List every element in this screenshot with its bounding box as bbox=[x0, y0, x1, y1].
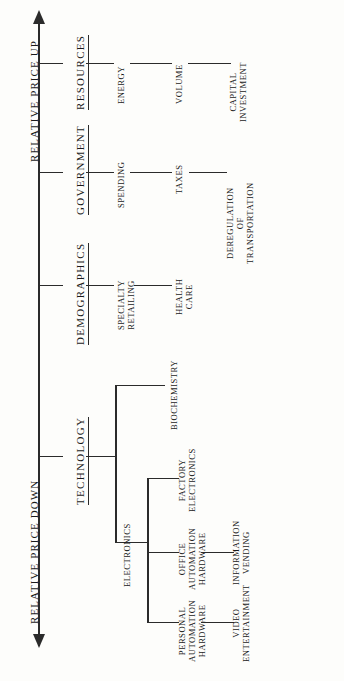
category-technology: TECHNOLOGY bbox=[74, 417, 89, 505]
taxes-to-deregulation-link bbox=[189, 172, 227, 173]
price-up-arrowhead bbox=[33, 10, 45, 24]
electronics-vertical-split bbox=[147, 478, 149, 622]
node-deregulation-transportation-label: DEREGULATIONOFTRANSPORTATION bbox=[225, 182, 255, 264]
node-electronics-label: ELECTRONICS bbox=[122, 523, 132, 587]
node-video-entertainment-label: VIDEOENTERTAINMENT bbox=[231, 584, 251, 662]
node-biochemistry: BIOCHEMISTRY bbox=[170, 360, 180, 430]
node-information-vending-label: INFORMATIONVENDING bbox=[231, 520, 251, 585]
technology-stub bbox=[86, 456, 116, 457]
axis-label-price-down: RELATIVE PRICE DOWN bbox=[28, 480, 40, 624]
node-taxes: TAXES bbox=[175, 164, 185, 194]
category-demographics: DEMOGRAPHICS bbox=[74, 243, 89, 345]
node-volume-label: VOLUME bbox=[174, 64, 184, 104]
price-down-arrowhead bbox=[33, 634, 45, 648]
node-energy: ENERGY bbox=[117, 66, 127, 104]
demographics-chain-line bbox=[86, 285, 114, 286]
category-government: GOVERNMENT bbox=[74, 125, 89, 215]
node-capital-investment-label: CAPITALINVESTMENT bbox=[228, 62, 248, 122]
government-chain-line bbox=[86, 172, 114, 173]
factory-electronics-leg bbox=[147, 478, 179, 479]
node-volume: VOLUME bbox=[175, 64, 185, 104]
volume-to-capital-link bbox=[188, 63, 231, 64]
node-personal-automation: PERSONALAUTOMATIONHARDWARE bbox=[178, 600, 208, 662]
technology-stem bbox=[39, 456, 63, 457]
office-automation-leg bbox=[147, 552, 179, 553]
node-health-care-label: HEALTHCARE bbox=[174, 278, 194, 315]
node-spending-label: SPENDING bbox=[116, 162, 126, 209]
specialty-to-health-care-link bbox=[134, 285, 172, 286]
technology-vertical-split bbox=[115, 385, 117, 543]
node-capital-investment: CAPITALINVESTMENT bbox=[229, 62, 249, 122]
biochemistry-leg bbox=[115, 385, 165, 386]
diagram-portrait: RELATIVE PRICE UP RELATIVE PRICE DOWN RE… bbox=[0, 0, 344, 681]
resources-chain-line bbox=[86, 63, 114, 64]
node-biochemistry-label: BIOCHEMISTRY bbox=[169, 360, 179, 430]
node-health-care: HEALTHCARE bbox=[175, 278, 195, 315]
node-factory-electronics: FACTORYELECTRONICS bbox=[178, 448, 198, 512]
node-specialty-retailing: SPECIALTYRETAILING bbox=[117, 280, 137, 330]
node-taxes-label: TAXES bbox=[174, 164, 184, 194]
node-information-vending: INFORMATIONVENDING bbox=[232, 520, 252, 585]
spending-to-taxes-link bbox=[130, 172, 172, 173]
node-office-automation: OFFICEAUTOMATIONHARDWARE bbox=[178, 528, 208, 590]
node-electronics: ELECTRONICS bbox=[123, 523, 133, 587]
personal-to-video-entertainment-link bbox=[201, 622, 234, 623]
node-deregulation-transportation: DEREGULATIONOFTRANSPORTATION bbox=[226, 182, 256, 264]
node-spending: SPENDING bbox=[117, 162, 127, 209]
node-specialty-retailing-label: SPECIALTYRETAILING bbox=[116, 280, 136, 330]
node-video-entertainment: VIDEOENTERTAINMENT bbox=[232, 584, 252, 662]
demographics-stem bbox=[39, 285, 63, 286]
energy-to-volume-link bbox=[130, 63, 172, 64]
node-personal-automation-label: PERSONALAUTOMATIONHARDWARE bbox=[177, 600, 207, 662]
node-factory-electronics-label: FACTORYELECTRONICS bbox=[178, 448, 198, 512]
resources-stem bbox=[39, 63, 63, 64]
axis-label-price-up: RELATIVE PRICE UP bbox=[28, 40, 40, 162]
office-to-information-vending-link bbox=[201, 552, 234, 553]
government-stem bbox=[39, 172, 63, 173]
node-office-automation-label: OFFICEAUTOMATIONHARDWARE bbox=[177, 528, 207, 590]
node-energy-label: ENERGY bbox=[116, 66, 126, 104]
personal-automation-leg bbox=[147, 622, 179, 623]
category-resources: RESOURCES bbox=[74, 35, 89, 110]
